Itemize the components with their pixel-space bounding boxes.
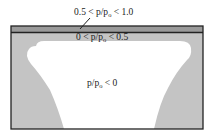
label-core: p/po < 0 (87, 78, 117, 89)
label-mid-zone: 0 < p/po < 0.5 (76, 32, 128, 43)
label-top-band: 0.5 < p/po < 1.0 (74, 7, 134, 18)
pressure-diagram: 0.5 < p/po < 1.0 0 < p/po < 0.5 p/po < 0 (0, 0, 212, 138)
